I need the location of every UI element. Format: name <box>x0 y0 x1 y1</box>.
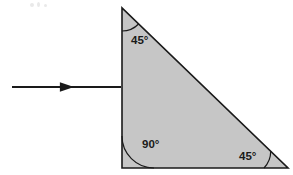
figure-root: Right isosceles triangular prism with in… <box>0 0 293 175</box>
top-angle-value: 45° <box>131 34 149 46</box>
bottom-right-angle-value: 45° <box>239 150 257 162</box>
incident-ray-arrowhead-icon <box>60 82 74 91</box>
bottom-left-angle-value: 90° <box>142 138 160 150</box>
bottom-right-angle-label: 45° <box>239 150 257 162</box>
bottom-left-angle-label: 90° <box>142 138 160 150</box>
triangle-diagram-svg: Right isosceles triangular prism with in… <box>0 0 293 175</box>
top-angle-label: 45° <box>131 34 149 46</box>
